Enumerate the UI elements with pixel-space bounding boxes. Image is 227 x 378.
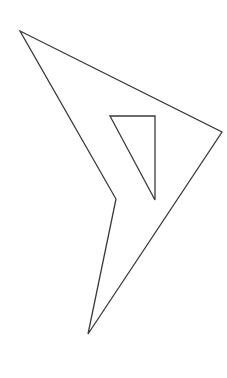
line-art-figure bbox=[0, 0, 227, 378]
